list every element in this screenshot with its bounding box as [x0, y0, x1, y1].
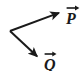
- vector-arrow-accent-icon: [44, 51, 57, 57]
- vector-p-label: P: [66, 5, 80, 27]
- vector-q-arrow: [10, 31, 37, 56]
- vector-diagram-figure: P Q: [0, 0, 82, 71]
- vector-p-arrow: [10, 13, 59, 31]
- vector-p-label-text: P: [66, 11, 80, 27]
- vector-q-label-text: Q: [44, 57, 57, 71]
- vector-arrow-accent-icon: [66, 5, 80, 11]
- vector-q-label: Q: [44, 51, 57, 71]
